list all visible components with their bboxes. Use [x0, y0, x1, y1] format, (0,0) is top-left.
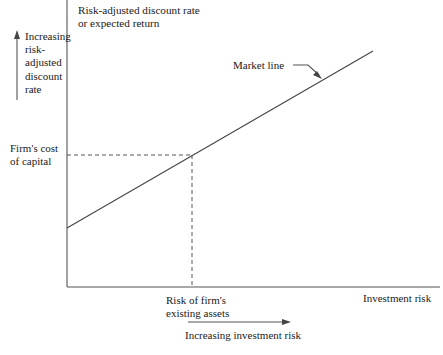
y-axis-title: Risk-adjusted discount rate or expected …: [78, 4, 200, 30]
x-axis-title: Investment risk: [363, 292, 431, 304]
increasing-investment-risk-label: Increasing investment risk: [185, 329, 301, 341]
firms-cost-of-capital-label: Firm's cost of capital: [10, 142, 66, 168]
risk-return-market-line-chart: Risk-adjusted discount rate or expected …: [0, 0, 443, 355]
market-line-callout-arrow-icon: [293, 65, 322, 79]
increasing-rate-arrow-icon: [14, 30, 20, 100]
risk-existing-assets-label: Risk of firm's existing assets: [166, 294, 229, 320]
increasing-rate-label: Increasing risk- adjusted discount rate: [25, 30, 71, 96]
market-line-label: Market line: [233, 59, 284, 71]
market-line-series: [67, 51, 373, 228]
